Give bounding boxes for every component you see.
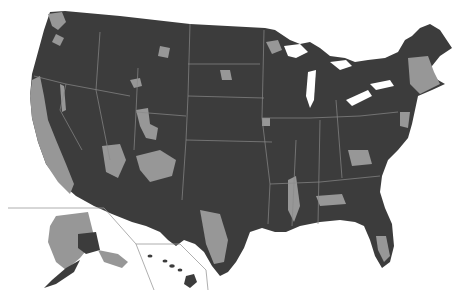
hawaii-inset (136, 244, 208, 290)
hawaii-big-island (184, 274, 197, 288)
us-county-map (0, 0, 469, 300)
